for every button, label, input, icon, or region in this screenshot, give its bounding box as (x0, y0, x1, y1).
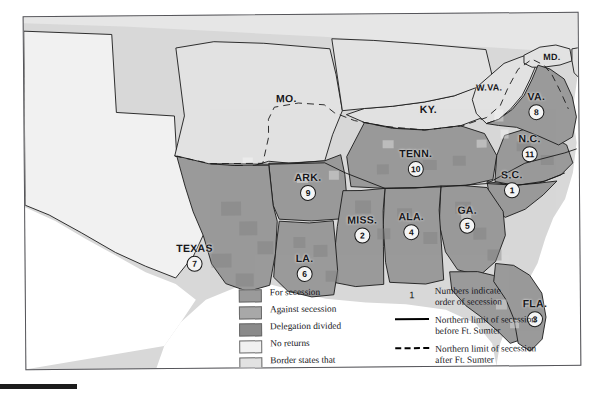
limit-line-after-ft-sumter (174, 59, 569, 164)
legend-item-border-states: Border states that did not secede (239, 354, 379, 370)
label-mississippi: MISS. (347, 213, 377, 225)
legend-swatch-border-states (239, 357, 262, 370)
order-badge-mississippi: 2 (354, 227, 370, 243)
legend-key-after-line2: after Ft. Sumter (435, 354, 494, 364)
legend-key-numbers-line1: Numbers indicate (435, 285, 501, 296)
legend-label-no-returns: No returns (270, 338, 310, 349)
order-badge-north-carolina: 11 (522, 146, 538, 162)
label-north-carolina: N.C. (518, 132, 540, 144)
label-missouri: MO. (276, 92, 297, 104)
order-badge-louisiana: 6 (297, 266, 313, 282)
limit-line-before-ft-sumter-east (487, 173, 565, 186)
label-alabama: ALA. (398, 210, 424, 222)
map-plate: MO. KY. W.VA. MD. DEL. VA. 8 N.C. 11 TEN… (23, 12, 582, 370)
legend-item-for-secession: For secession (239, 286, 379, 304)
map-inner: MO. KY. W.VA. MD. DEL. VA. 8 N.C. 11 TEN… (24, 13, 581, 369)
legend-key-before-line1: Northern limit of secession (435, 314, 536, 325)
legend-swatch-against-secession (239, 306, 262, 319)
label-south-carolina: S.C. (501, 168, 523, 180)
legend-key-order-numbers: 1 Numbers indicate order of secession (389, 285, 539, 307)
legend-label-against-secession: Against secession (270, 304, 336, 315)
legend-key-after-line1: Northern limit of secession (435, 343, 536, 354)
legend-swatch-for-secession (239, 289, 262, 302)
label-west-virginia: W.VA. (476, 82, 502, 92)
label-georgia: GA. (457, 204, 477, 216)
label-kentucky: KY. (420, 103, 437, 115)
label-delaware: DEL. (579, 66, 581, 76)
legend-swatch-no-returns (239, 340, 262, 353)
legend-key-numbers-line2: order of secession (435, 296, 502, 307)
legend-key-column: 1 Numbers indicate order of secession No… (389, 285, 540, 370)
legend-swatch-column: For secession Against secession Delegati… (239, 286, 380, 370)
footer-rule (0, 384, 77, 389)
label-louisiana: LA. (296, 252, 314, 264)
legend-key-before-line2: before Ft. Sumter (435, 325, 500, 336)
legend-label-border-states-line2: did not secede (270, 365, 323, 370)
legend-key-limit-after: Northern limit of secession after Ft. Su… (389, 343, 539, 365)
legend-label-for-secession: For secession (270, 287, 320, 298)
legend-item-no-returns: No returns (239, 337, 379, 355)
order-badge-alabama: 4 (403, 224, 419, 240)
order-badge-georgia: 5 (459, 218, 475, 234)
label-arkansas: ARK. (294, 171, 321, 183)
map-legend: For secession Against secession Delegati… (239, 285, 540, 367)
legend-item-delegation-divided: Delegation divided (239, 320, 379, 338)
order-badge-tennessee: 10 (408, 161, 424, 177)
legend-label-delegation-divided: Delegation divided (270, 321, 341, 332)
order-badge-arkansas: 9 (300, 185, 316, 201)
legend-label-border-states-line1: Border states that (270, 355, 335, 366)
order-badge-virginia: 8 (528, 104, 544, 120)
label-maryland: MD. (543, 52, 560, 62)
label-virginia: VA. (527, 90, 545, 102)
legend-swatch-delegation-divided (239, 323, 262, 336)
label-tennessee: TENN. (399, 147, 432, 159)
legend-key-limit-before: Northern limit of secession before Ft. S… (389, 314, 539, 336)
order-badge-south-carolina: 1 (504, 182, 520, 198)
order-badge-texas: 7 (187, 256, 203, 272)
legend-key-number-sample: 1 (389, 286, 435, 300)
label-texas: TEXAS (176, 242, 213, 254)
legend-key-dashed-line-icon (389, 344, 435, 349)
map-page: MO. KY. W.VA. MD. DEL. VA. 8 N.C. 11 TEN… (0, 0, 600, 410)
legend-key-solid-line-icon (389, 315, 435, 320)
legend-item-against-secession: Against secession (239, 303, 379, 321)
